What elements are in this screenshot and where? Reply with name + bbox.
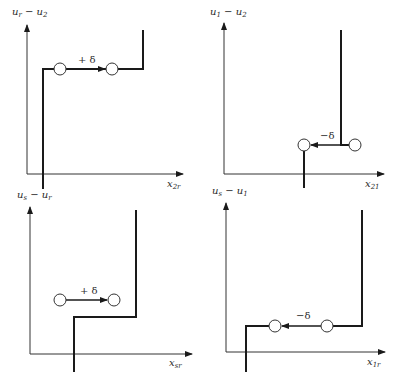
shifted-point-circle — [298, 139, 310, 151]
shift-label: + δ — [78, 54, 96, 65]
step-curve-lower — [246, 326, 269, 372]
shifted-point-circle — [106, 63, 118, 75]
shift-label: + δ — [80, 285, 98, 296]
y-axis-label: ur − u2 — [12, 6, 48, 19]
shifted-point-circle — [269, 320, 281, 332]
panel-bottom-right: us − u1 x1r −δ — [212, 185, 385, 372]
x-axis-label: x21 — [365, 178, 380, 191]
initial-point-circle — [321, 320, 333, 332]
x-axis-label: xsr — [169, 357, 182, 370]
step-curve-upper — [341, 30, 349, 145]
initial-point-circle — [349, 139, 361, 151]
diagram-canvas: ur − u2 x2r + δ u1 − u2 x21 −δ us − ur — [0, 0, 397, 381]
shift-label: −δ — [320, 130, 334, 141]
panel-top-left: ur − u2 x2r + δ — [12, 6, 183, 191]
panel-bottom-left: us − ur xsr + δ — [17, 189, 192, 372]
initial-point-circle — [54, 294, 66, 306]
x-axis-label: x2r — [167, 178, 181, 191]
y-axis-label: u1 − u2 — [210, 6, 247, 19]
step-curve-upper — [333, 210, 362, 326]
shifted-point-circle — [108, 294, 120, 306]
panel-top-right: u1 − u2 x21 −δ — [210, 6, 384, 191]
x-axis-label: x1r — [367, 356, 381, 369]
shift-label: −δ — [296, 310, 310, 321]
y-axis-label: us − u1 — [212, 185, 248, 198]
y-axis-label: us − ur — [17, 189, 52, 202]
initial-point-circle — [54, 63, 66, 75]
